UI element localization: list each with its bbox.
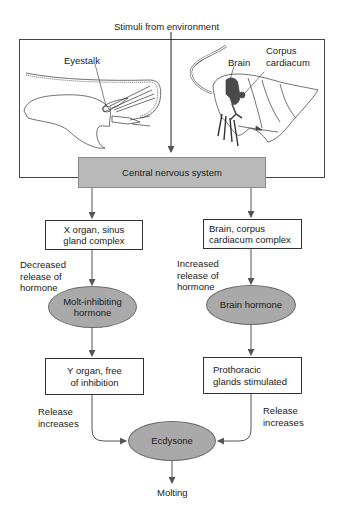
central-nervous-system-box: Central nervous system bbox=[78, 157, 266, 188]
increased-release-note: Increased release of hormone bbox=[177, 258, 219, 293]
decreased-release-note: Decreased release of hormone bbox=[20, 259, 66, 294]
molt-inhibiting-hormone-node: Molt-inhibiting hormone bbox=[48, 286, 137, 328]
crustacean-illustration bbox=[24, 64, 161, 148]
central-nervous-system-label: Central nervous system bbox=[122, 167, 222, 178]
brain-corpus-box: Brain, corpus cardiacum complex bbox=[203, 219, 302, 249]
left-release-increases-label: Release increases bbox=[38, 406, 79, 429]
brain-hormone-label: Brain hormone bbox=[220, 299, 282, 311]
x-organ-box: X organ, sinus gland complex bbox=[45, 220, 143, 250]
eyestalk-label: Eyestalk bbox=[64, 55, 100, 67]
right-release-increases-label: Release increases bbox=[263, 405, 304, 428]
arrow-prothoracic-to-ecdysone bbox=[218, 394, 251, 441]
molting-label: Molting bbox=[157, 487, 188, 499]
corpus-cardiacum-label: Corpus cardiacum bbox=[266, 45, 310, 68]
arrow-y-organ-to-ecdysone bbox=[92, 395, 126, 441]
brain-hormone-node: Brain hormone bbox=[206, 285, 296, 325]
ecdysone-label: Ecdysone bbox=[151, 435, 193, 447]
stimuli-label: Stimuli from environment bbox=[114, 21, 219, 33]
prothoracic-glands-box: Prothoracic glands stimulated bbox=[203, 357, 302, 394]
brain-label: Brain bbox=[228, 57, 250, 69]
y-organ-box: Y organ, free of inhibition bbox=[45, 358, 144, 395]
ecdysone-node: Ecdysone bbox=[128, 421, 216, 461]
